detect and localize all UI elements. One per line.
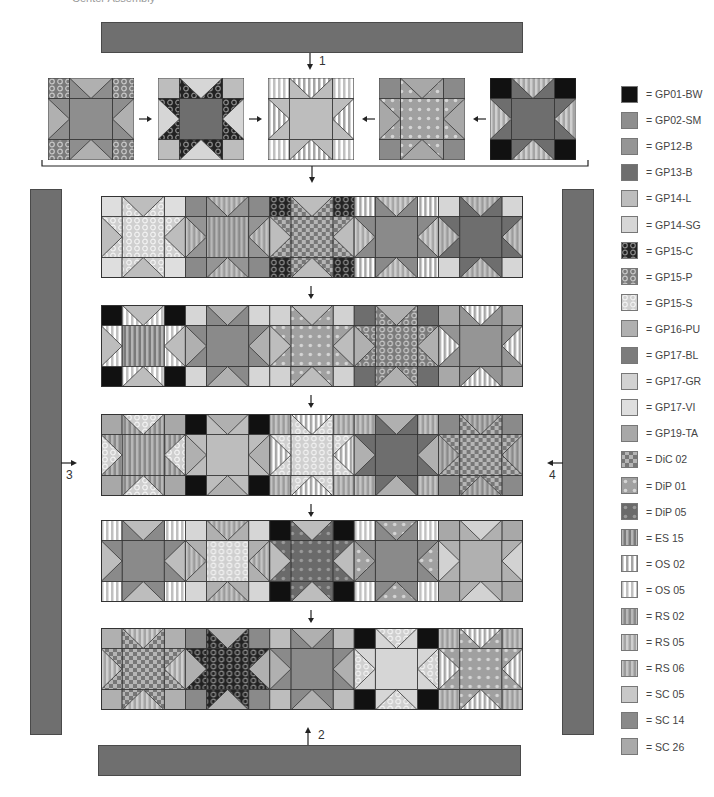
arrow-left-icon: [547, 458, 563, 468]
star-block: [185, 196, 269, 278]
legend-item: = DiC 02: [621, 450, 687, 468]
fabric-swatch: [621, 216, 638, 233]
legend-item: = GP17-VI: [621, 398, 695, 416]
arrow-right-icon: [139, 115, 153, 123]
arrow-right-icon: [249, 115, 263, 123]
fabric-swatch: [621, 686, 638, 703]
legend-item: = GP15-S: [621, 294, 692, 312]
fabric-swatch: [621, 529, 638, 546]
legend-label: = GP14-L: [646, 192, 691, 204]
fabric-swatch: [621, 608, 638, 625]
star-block: [439, 196, 523, 278]
legend-item: = GP19-TA: [621, 424, 698, 442]
legend-label: = GP17-VI: [646, 401, 695, 413]
fabric-swatch: [621, 660, 638, 677]
legend-label: = GP15-S: [646, 297, 692, 309]
fabric-swatch: [621, 373, 638, 390]
legend-label: = ES 15: [646, 532, 684, 544]
block-row-5: [101, 628, 523, 710]
star-block: [439, 305, 523, 387]
legend-label: = OS 02: [646, 558, 685, 570]
legend-item: = RS 06: [621, 659, 684, 677]
star-block: [354, 196, 438, 278]
arrow-down-icon: [306, 504, 316, 518]
fabric-swatch: [621, 399, 638, 416]
legend-label: = GP17-BL: [646, 349, 698, 361]
arrow-down-icon: [306, 395, 316, 409]
legend-label: = GP12-B: [646, 140, 692, 152]
star-block: [185, 305, 269, 387]
star-block: [270, 196, 354, 278]
star-block: [439, 414, 523, 496]
star-block: [185, 414, 269, 496]
fabric-swatch: [621, 634, 638, 651]
legend-label: = RS 02: [646, 610, 684, 622]
legend-label: = GP17-GR: [646, 375, 701, 387]
legend-item: = RS 02: [621, 607, 684, 625]
fabric-swatch: [621, 503, 638, 520]
star-block: [185, 628, 269, 710]
block-row-3: [101, 414, 523, 496]
star-block: [270, 628, 354, 710]
star-block: [270, 305, 354, 387]
left-border-strip: [30, 189, 62, 735]
arrow-left-icon: [361, 115, 375, 123]
fabric-swatch: [621, 477, 638, 494]
fabric-swatch: [621, 190, 638, 207]
star-block: [270, 520, 354, 602]
legend-item: = GP12-B: [621, 137, 692, 155]
star-block: [354, 414, 438, 496]
star-block: [439, 520, 523, 602]
star-block: [354, 520, 438, 602]
legend-item: = OS 05: [621, 581, 685, 599]
fabric-swatch: [621, 86, 638, 103]
legend-item: = DiP 05: [621, 503, 686, 521]
legend-label: = RS 05: [646, 636, 684, 648]
legend-item: = GP02-SM: [621, 111, 701, 129]
star-block: [185, 520, 269, 602]
step-label-3: 3: [66, 468, 73, 482]
legend-item: = ES 15: [621, 529, 684, 547]
example-star-block: [490, 78, 576, 160]
block-row-2: [101, 305, 523, 387]
arrow-down-icon: [306, 610, 316, 624]
star-block: [101, 628, 185, 710]
legend-label: = SC 26: [646, 741, 684, 753]
bracket-connector: [40, 160, 590, 190]
legend-label: = GP13-B: [646, 166, 692, 178]
fabric-swatch: [621, 451, 638, 468]
block-row-1: [101, 196, 523, 278]
legend-label: = OS 05: [646, 584, 685, 596]
legend-item: = OS 02: [621, 555, 685, 573]
legend-label: = RS 06: [646, 662, 684, 674]
fabric-swatch: [621, 555, 638, 572]
legend-item: = GP15-P: [621, 268, 692, 286]
bottom-border-strip: [98, 745, 521, 776]
arrow-left-icon: [472, 115, 486, 123]
star-block: [270, 414, 354, 496]
legend-label: = DiC 02: [646, 453, 687, 465]
legend-item: = GP17-BL: [621, 346, 698, 364]
legend-item: = GP14-L: [621, 189, 691, 207]
legend-item: = SC 26: [621, 738, 684, 756]
fabric-swatch: [621, 320, 638, 337]
legend-item: = SC 14: [621, 711, 684, 729]
legend-item: = GP01-BW: [621, 85, 702, 103]
legend-label: = DiP 05: [646, 506, 686, 518]
star-block: [101, 520, 185, 602]
fabric-swatch: [621, 581, 638, 598]
example-star-block: [379, 78, 465, 160]
arrow-down-icon: [306, 286, 316, 300]
step-label-1: 1: [319, 54, 326, 68]
legend-label: = GP02-SM: [646, 114, 701, 126]
fabric-swatch: [621, 268, 638, 285]
legend-label: = GP15-P: [646, 271, 692, 283]
star-block: [101, 196, 185, 278]
legend-item: = SC 05: [621, 685, 684, 703]
example-star-block: [48, 78, 134, 160]
fabric-swatch: [621, 164, 638, 181]
legend-label: = GP14-SG: [646, 219, 701, 231]
arrow-right-icon: [61, 458, 77, 468]
legend-item: = GP17-GR: [621, 372, 701, 390]
fabric-swatch: [621, 138, 638, 155]
